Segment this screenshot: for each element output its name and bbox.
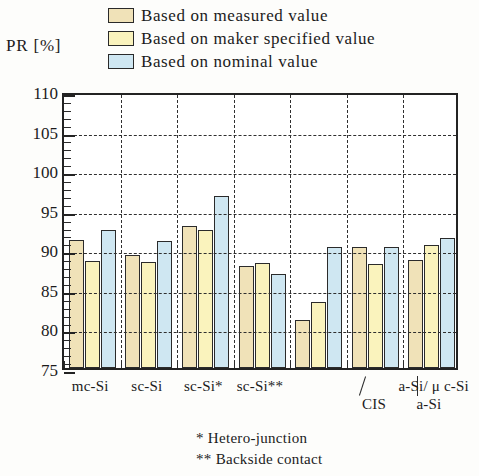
y-tick-minor-82 (64, 317, 71, 318)
y-tick-major-80 (64, 332, 75, 334)
y-tick-minor-89 (64, 261, 71, 262)
y-tick-minor-106 (64, 127, 71, 128)
gridline-y-100 (64, 174, 456, 175)
y-tick-minor-101 (64, 166, 71, 167)
y-tick-minor-94 (64, 222, 71, 223)
y-tick-major-85 (64, 293, 75, 295)
group-separator-4 (290, 95, 291, 368)
y-tick-minor-83 (64, 309, 71, 310)
bar-scSi-s2 (141, 262, 156, 368)
x-tick-2 (177, 361, 178, 368)
bar-CIS-s3 (327, 247, 342, 368)
y-tick-minor-77 (64, 356, 71, 357)
y-tick-label-110: 110 (33, 85, 58, 102)
bar-mcSi-s2 (85, 261, 100, 368)
y-tick-minor-109 (64, 103, 71, 104)
y-tick-minor-98 (64, 190, 71, 191)
bar-scSi-s1 (182, 226, 197, 368)
group-separator-6 (403, 95, 404, 368)
bars-container (64, 95, 456, 368)
y-tick-minor-92 (64, 237, 71, 238)
bar-scSi-s3 (214, 196, 229, 368)
chart-footnotes: * Hetero-junction ** Backside contact (196, 428, 323, 469)
bar-CIS-s1 (295, 320, 310, 368)
bar-aSi-s1 (352, 247, 367, 368)
y-tick-minor-87 (64, 277, 71, 278)
x-tick-5 (347, 361, 348, 368)
bar-aSi-s2 (368, 264, 383, 368)
group-separator-2 (177, 95, 178, 368)
y-tick-minor-102 (64, 158, 71, 159)
y-tick-label-105: 105 (33, 124, 59, 141)
bar-scSi-s3 (271, 274, 286, 368)
y-tick-minor-104 (64, 142, 71, 143)
gridline-y-80 (64, 332, 456, 333)
x-label-mcSi: mc-Si (72, 379, 109, 394)
y-tick-label-80: 80 (41, 322, 58, 339)
x-tick-1 (121, 361, 122, 368)
x-tick-0 (64, 361, 65, 368)
gridline-y-90 (64, 253, 456, 254)
y-tick-label-75: 75 (41, 362, 58, 379)
y-tick-minor-107 (64, 119, 71, 120)
y-tick-minor-88 (64, 269, 71, 270)
x-tick-6 (403, 361, 404, 368)
y-axis-tick-labels: 1101051009590858075 (4, 93, 58, 370)
gridline-y-85 (64, 293, 456, 294)
bar-aSicSi-s3 (440, 238, 455, 368)
bar-chart: 1101051009590858075 CIS a-Si mc-Sisc-Sis… (0, 0, 479, 476)
y-tick-minor-97 (64, 198, 71, 199)
bar-scSi-s1 (125, 255, 140, 368)
y-tick-major-110 (64, 95, 75, 97)
x-label-scSi: sc-Si** (237, 379, 283, 394)
bar-aSi-s3 (384, 247, 399, 368)
bar-scSi-s3 (157, 241, 172, 368)
y-tick-minor-86 (64, 285, 71, 286)
bar-mcSi-s1 (69, 240, 84, 368)
x-axis-tick-labels: CIS a-Si mc-Sisc-Sisc-Si*sc-Si**CISa-Sia… (62, 374, 458, 418)
x-tick-4 (290, 361, 291, 368)
y-tick-minor-84 (64, 301, 71, 302)
plot-area (62, 93, 458, 370)
y-tick-major-105 (64, 135, 75, 137)
bar-mcSi-s3 (101, 230, 116, 368)
y-tick-label-85: 85 (41, 282, 58, 299)
y-tick-label-100: 100 (33, 164, 59, 181)
footnote-backside-contact: ** Backside contact (196, 449, 323, 470)
y-tick-minor-93 (64, 230, 71, 231)
x-label-scSi: sc-Si* (184, 379, 223, 394)
gridline-y-105 (64, 135, 456, 136)
x-label-row2-cis: CIS (362, 397, 386, 412)
group-separator-1 (121, 95, 122, 368)
group-separator-3 (234, 95, 235, 368)
y-tick-major-95 (64, 214, 75, 216)
y-tick-minor-96 (64, 206, 71, 207)
x-tick-3 (234, 361, 235, 368)
group-separator-5 (347, 95, 348, 368)
footnote-hetero-junction: * Hetero-junction (196, 428, 323, 449)
y-tick-minor-78 (64, 348, 71, 349)
bar-aSicSi-s2 (424, 245, 439, 368)
y-tick-major-100 (64, 174, 75, 176)
x-label-scSi: sc-Si (131, 379, 162, 394)
x-label-aSicSi: a-Si/ μ c-Si (398, 379, 468, 394)
bar-scSi-s2 (198, 230, 213, 368)
y-tick-label-90: 90 (41, 243, 58, 260)
bar-scSi-s2 (255, 263, 270, 368)
group-divider-cis (359, 376, 366, 395)
x-label-row2-asi: a-Si (417, 397, 442, 412)
bar-scSi-s1 (239, 266, 254, 368)
y-tick-minor-76 (64, 364, 71, 365)
y-tick-label-95: 95 (41, 203, 58, 220)
y-tick-minor-99 (64, 182, 71, 183)
y-tick-minor-108 (64, 111, 71, 112)
y-tick-minor-91 (64, 245, 71, 246)
gridline-y-95 (64, 214, 456, 215)
y-tick-major-90 (64, 253, 75, 255)
y-tick-minor-79 (64, 340, 71, 341)
bar-CIS-s2 (311, 302, 326, 368)
y-tick-minor-103 (64, 150, 71, 151)
bar-aSicSi-s1 (408, 260, 423, 368)
y-tick-minor-81 (64, 325, 71, 326)
